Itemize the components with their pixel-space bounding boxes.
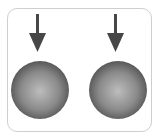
diagram-canvas [0, 0, 159, 136]
arrow-down-icon [29, 14, 46, 52]
left-sphere [11, 61, 69, 119]
right-sphere [89, 61, 147, 119]
arrow-down-icon [107, 14, 124, 52]
right-group [89, 14, 147, 119]
left-group [11, 14, 69, 119]
